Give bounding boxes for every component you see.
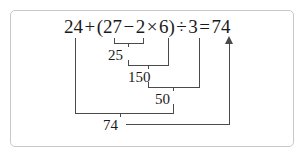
step3-bracket-right-tick xyxy=(199,38,200,87)
equation-token-equals: = xyxy=(198,17,212,37)
step3-result-connector xyxy=(173,87,174,91)
equation-token-2: 2 xyxy=(136,17,146,37)
equation-token-6: 6 xyxy=(159,17,169,37)
step3-bracket-bar xyxy=(148,87,200,88)
equation-token-3: 3 xyxy=(188,17,198,37)
equation-token-74: 74 xyxy=(211,17,230,37)
step4-bracket-left-tick xyxy=(75,38,76,114)
step1-result-value: 25 xyxy=(108,47,123,63)
final-answer-horizontal-line xyxy=(126,124,230,125)
equation-token-24: 24 xyxy=(64,17,83,37)
step3-result-value: 50 xyxy=(155,91,170,107)
step4-bracket-right-tick xyxy=(173,104,174,114)
arrow-up-icon xyxy=(225,36,233,44)
step2-bracket-right-tick xyxy=(168,38,169,65)
step1-bracket-right-tick xyxy=(143,38,144,44)
equation-token-times: × xyxy=(145,17,159,37)
step1-result-connector xyxy=(128,43,129,47)
step4-result-connector xyxy=(120,113,121,117)
step1-bracket-bar xyxy=(114,43,144,44)
step4-bracket-bar xyxy=(75,113,174,114)
equation-token-divide: ÷ xyxy=(175,17,188,37)
equation-token-plus: + xyxy=(83,17,97,37)
step4-result-value: 74 xyxy=(103,117,118,133)
equation-token-minus: − xyxy=(122,17,136,37)
equation-expression: 24+(27−2×6)÷3=74 xyxy=(64,17,230,37)
worked-example-figure: 24+(27−2×6)÷3=74 25 150 50 74 xyxy=(0,0,305,159)
final-answer-vertical-line xyxy=(229,42,230,125)
equation-token-27: 27 xyxy=(103,17,122,37)
